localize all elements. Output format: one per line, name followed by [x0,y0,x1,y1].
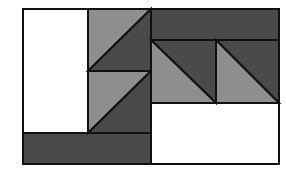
left-white-column [23,9,88,133]
bottom-right-white [151,103,279,164]
quilt-diagram [0,0,286,175]
top-right-dark-bar [151,9,279,40]
bottom-left-dark-bar [23,133,151,164]
